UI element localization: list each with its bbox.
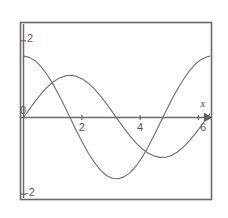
plot-svg: 2 -2 0 2 4 6 x — [0, 0, 228, 218]
x-axis-label: x — [200, 97, 206, 109]
y-tick-label-2: 2 — [27, 32, 33, 44]
plot-frame — [21, 23, 212, 200]
chart-container: 2 -2 0 2 4 6 x — [0, 0, 228, 218]
x-tick-label-2: 2 — [79, 121, 85, 133]
y-tick-label-minus-2: -2 — [25, 186, 35, 198]
x-tick-label-4: 4 — [137, 121, 143, 133]
